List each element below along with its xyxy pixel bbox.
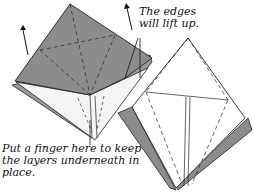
finger-annotation-line-3: place. <box>2 167 141 179</box>
lift-arrow-left <box>20 25 28 55</box>
edges-annotation-line-2: will lift up. <box>139 18 199 30</box>
edges-annotation: The edges will lift up. <box>139 6 199 30</box>
finger-annotation: Put a finger here to keep the layers und… <box>2 143 141 179</box>
lift-arrow-right <box>124 3 132 30</box>
